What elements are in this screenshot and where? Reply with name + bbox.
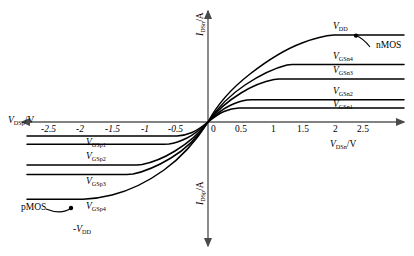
nmos-leader-line [356,36,370,47]
curve-label-vgsn1: VGSn1 [333,100,353,110]
x-tick-0.5: 0.5 [235,125,247,135]
x-axis-positive-label: VDSn/V [330,140,356,150]
x-tick--2.5: -2.5 [41,125,56,135]
mosfet-iv-characteristic-figure: -2.5 -2 -1.5 -1 -0.5 0 0.5 1 1.5 2 2.5 V… [0,0,414,256]
x-tick-2: 2 [333,125,338,135]
x-tick--1.5: -1.5 [105,125,120,135]
nmos-curve-vgsn4 [208,65,404,123]
curve-label-vgsp4: VGSp4 [86,202,106,212]
curve-label-vddneg: -VDD [73,225,91,235]
x-axis-negative-label: VDSp/V [8,116,34,126]
x-tick-0: 0 [211,125,216,135]
nmos-curve-vgsn2 [208,100,404,122]
x-tick-2.5: 2.5 [357,125,369,135]
curve-label-vgsn2: VGSn2 [333,87,353,97]
x-tick--2: -2 [76,125,84,135]
curve-label-vgsn3: VGSn3 [333,66,353,76]
nmos-curve-vgsn1 [208,108,404,122]
pmos-callout-label: pMOS [21,203,46,213]
nmos-curve-group [208,35,404,122]
y-axis-negative-label: IDSp/A [196,181,206,205]
x-tick--1: -1 [141,125,149,135]
curve-label-vgsp1: VGSp1 [86,138,106,148]
x-tick--0.5: -0.5 [168,125,183,135]
curve-label-vgsp2: VGSp2 [86,152,106,162]
curve-label-vgsn4: VGSn4 [333,52,353,62]
y-axis-positive-label: IDSn/A [196,12,206,36]
plot-canvas [0,0,414,256]
nmos-callout-label: nMOS [376,41,401,51]
x-tick-1: 1 [271,125,276,135]
curve-label-vdd: VDD [333,22,348,32]
curve-label-vgsp3: VGSp3 [86,177,106,187]
pmos-leader-line [46,208,71,212]
x-tick-1.5: 1.5 [297,125,309,135]
